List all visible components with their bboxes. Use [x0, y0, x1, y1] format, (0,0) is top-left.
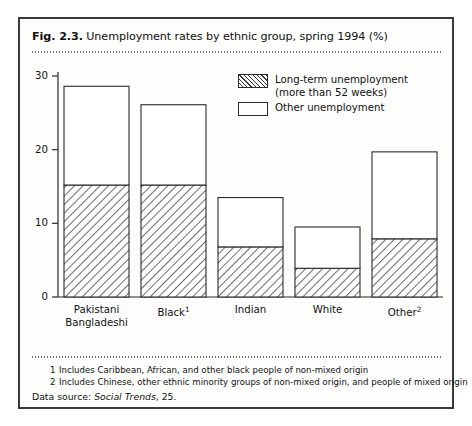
- bar-segment-long-term: [64, 185, 129, 297]
- footnote-1-marker: 1: [50, 364, 59, 376]
- y-axis-tick-label: 0: [28, 291, 48, 302]
- data-source-title: Social Trends: [94, 391, 156, 402]
- figure-footnotes: 1Includes Caribbean, African, and other …: [50, 364, 468, 388]
- bar-segment-other: [141, 105, 206, 185]
- y-axis-tick-label: 10: [28, 217, 48, 228]
- legend-label-long-term: Long-term unemployment (more than 52 wee…: [275, 74, 408, 99]
- legend-label-other: Other unemployment: [275, 102, 384, 115]
- x-axis-tick-label: Other2: [350, 304, 460, 320]
- legend-label-long-term-line1: Long-term unemployment: [275, 74, 408, 85]
- legend-item-long-term: Long-term unemployment (more than 52 wee…: [238, 74, 408, 99]
- chart-legend: Long-term unemployment (more than 52 wee…: [238, 74, 408, 119]
- bar-segment-other: [218, 198, 283, 247]
- data-source-suffix: , 25.: [156, 391, 177, 402]
- y-axis-tick-label: 20: [28, 144, 48, 155]
- figure-container: Fig. 2.3. Unemployment rates by ethnic g…: [18, 17, 454, 409]
- bar-segment-other: [372, 152, 437, 239]
- footnote-2-text: Includes Chinese, other ethnic minority …: [59, 377, 468, 387]
- legend-label-long-term-line2: (more than 52 weeks): [275, 87, 387, 98]
- footnote-2: 2Includes Chinese, other ethnic minority…: [50, 376, 468, 388]
- bar-segment-other: [64, 86, 129, 185]
- data-source-prefix: Data source:: [32, 391, 91, 402]
- bar-segment-other: [295, 227, 360, 268]
- bar-segment-long-term: [295, 268, 360, 297]
- bar-segment-long-term: [218, 247, 283, 297]
- data-source-line: Data source: Social Trends, 25.: [32, 391, 177, 402]
- footnote-1: 1Includes Caribbean, African, and other …: [50, 364, 468, 376]
- footnote-1-text: Includes Caribbean, African, and other b…: [59, 365, 368, 375]
- legend-item-other: Other unemployment: [238, 102, 408, 116]
- legend-swatch-hatched-icon: [238, 74, 268, 88]
- bar-segment-long-term: [372, 239, 437, 297]
- y-axis-tick-label: 30: [28, 70, 48, 81]
- legend-swatch-empty-icon: [238, 102, 268, 116]
- footnote-2-marker: 2: [50, 376, 59, 388]
- bar-segment-long-term: [141, 185, 206, 297]
